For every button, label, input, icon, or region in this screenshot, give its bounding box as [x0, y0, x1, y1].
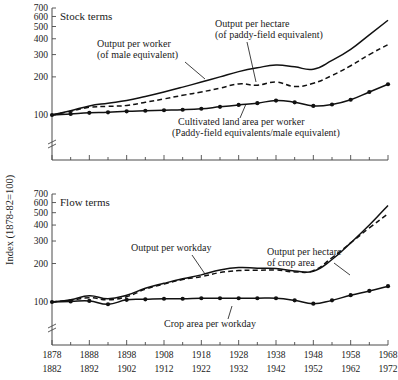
- data-point-marker: [367, 289, 371, 293]
- y-tick-bottom-400: 400: [34, 220, 49, 230]
- x-tick-upper-1888: 1888: [80, 350, 99, 360]
- x-tick-lower-1962: 1962: [341, 364, 360, 374]
- y-tick-top-400: 400: [34, 34, 49, 44]
- data-point-marker: [255, 296, 259, 300]
- data-point-marker: [386, 82, 390, 86]
- panel-title-flow: Flow terms: [60, 196, 110, 208]
- x-tick-upper-1968: 1968: [379, 350, 398, 360]
- data-point-marker: [218, 105, 222, 109]
- leader-ophc: [334, 263, 350, 275]
- data-point-marker: [218, 296, 222, 300]
- data-point-marker: [87, 111, 91, 115]
- data-point-marker: [293, 298, 297, 302]
- data-point-marker: [143, 297, 147, 301]
- leader-opwd: [192, 255, 205, 274]
- y-tick-top-100: 100: [34, 110, 49, 120]
- panel-title-stock: Stock terms: [60, 10, 112, 22]
- annotation-crop-area-per-workday: Crop area per workday: [164, 306, 256, 329]
- x-axis-labels: 1878188218881892189819021908191219181922…: [43, 350, 398, 374]
- data-point-marker: [106, 110, 110, 114]
- data-point-marker: [125, 109, 129, 113]
- agricultural-productivity-figure: Index (1878-82=100) Stock terms 10020030…: [0, 0, 398, 380]
- x-tick-upper-1938: 1938: [267, 350, 286, 360]
- x-tick-upper-1918: 1918: [192, 350, 211, 360]
- x-tick-lower-1882: 1882: [43, 364, 62, 374]
- data-point-marker: [199, 296, 203, 300]
- data-point-marker: [181, 108, 185, 112]
- data-point-marker: [162, 108, 166, 112]
- y-tick-top-300: 300: [34, 50, 49, 60]
- annot-opw-line2: (of male equivalent): [97, 49, 178, 61]
- annot-ophc-line2: of crop area: [267, 257, 315, 268]
- data-point-marker: [125, 298, 129, 302]
- data-point-marker: [349, 98, 353, 102]
- data-point-marker: [162, 297, 166, 301]
- x-tick-upper-1948: 1948: [304, 350, 323, 360]
- y-axis-title: Index (1878-82=100): [4, 174, 16, 265]
- panel-flow-terms: Flow terms 100200300400500600700 Output …: [34, 189, 398, 374]
- annot-oph-line1: Output per hectare: [215, 18, 290, 29]
- y-tick-top-700: 700: [34, 3, 49, 13]
- y-tick-bottom-100: 100: [34, 297, 49, 307]
- annot-cla-line2: (Paddy-field equivalents/male equivalent…: [172, 127, 340, 139]
- series-line-bottom-1: [52, 214, 388, 302]
- x-tick-lower-1902: 1902: [117, 364, 136, 374]
- x-tick-lower-1922: 1922: [192, 364, 211, 374]
- data-point-marker: [50, 113, 54, 117]
- series-line-top-2: [52, 84, 388, 115]
- annotation-output-per-hectare-top: Output per hectare (of paddy-field equiv…: [215, 18, 323, 82]
- annotation-output-per-workday: Output per workday: [131, 242, 212, 274]
- data-point-marker: [349, 293, 353, 297]
- y-tick-bottom-500: 500: [34, 208, 49, 218]
- y-tick-bottom-200: 200: [34, 259, 49, 269]
- data-point-marker: [311, 302, 315, 306]
- y-tick-bottom-700: 700: [34, 189, 49, 199]
- annot-opw-line1: Output per worker: [97, 38, 172, 49]
- y-axis-ticks-bottom: 100200300400500600700: [34, 189, 56, 307]
- data-point-marker: [106, 302, 110, 306]
- data-point-marker: [69, 112, 73, 116]
- annot-oph-line2: (of paddy-field equivalent): [215, 29, 323, 41]
- data-point-marker: [143, 109, 147, 113]
- data-point-marker: [293, 100, 297, 104]
- y-tick-top-200: 200: [34, 72, 49, 82]
- x-tick-lower-1912: 1912: [155, 364, 174, 374]
- x-tick-lower-1942: 1942: [267, 364, 286, 374]
- data-point-marker: [386, 284, 390, 288]
- data-point-marker: [311, 104, 315, 108]
- x-tick-upper-1878: 1878: [43, 350, 62, 360]
- annot-opwd: Output per workday: [131, 242, 212, 253]
- x-tick-lower-1932: 1932: [229, 364, 248, 374]
- annot-ophc-line1: Output per hectare: [267, 246, 342, 257]
- data-point-marker: [237, 296, 241, 300]
- annotation-output-per-worker-top: Output per worker (of male equivalent): [97, 38, 205, 79]
- leader-oph-top: [247, 42, 256, 82]
- x-tick-lower-1972: 1972: [379, 364, 398, 374]
- data-point-marker: [87, 299, 91, 303]
- x-tick-upper-1898: 1898: [117, 350, 136, 360]
- data-point-marker: [330, 102, 334, 106]
- data-point-marker: [255, 101, 259, 105]
- data-point-marker: [367, 90, 371, 94]
- y-tick-bottom-600: 600: [34, 198, 49, 208]
- y-tick-top-500: 500: [34, 22, 49, 32]
- x-tick-upper-1928: 1928: [229, 350, 248, 360]
- y-axis-title-text: Index (1878-82=100): [4, 174, 16, 265]
- series-line-bottom-2: [52, 286, 388, 304]
- x-tick-upper-1958: 1958: [341, 350, 360, 360]
- x-tick-lower-1952: 1952: [304, 364, 323, 374]
- annot-capw: Crop area per workday: [164, 318, 256, 329]
- data-point-marker: [330, 298, 334, 302]
- y-tick-bottom-300: 300: [34, 236, 49, 246]
- x-tick-upper-1908: 1908: [155, 350, 174, 360]
- x-tick-lower-1892: 1892: [80, 364, 99, 374]
- y-axis-ticks-top: 100200300400500600700: [34, 3, 56, 120]
- data-point-marker: [199, 107, 203, 111]
- data-point-marker: [69, 299, 73, 303]
- data-point-marker: [50, 300, 54, 304]
- data-point-marker: [181, 297, 185, 301]
- annot-cla-line1: Cultivated land area per worker: [178, 116, 305, 127]
- panel-stock-terms: Stock terms 100200300400500600700 Output…: [34, 3, 390, 160]
- data-point-marker: [237, 103, 241, 107]
- figure-root: Index (1878-82=100) Stock terms 10020030…: [0, 0, 398, 380]
